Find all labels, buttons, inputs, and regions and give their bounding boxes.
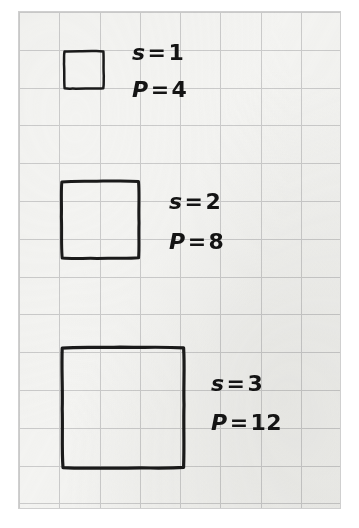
- label-perimeter-2-variable: P: [169, 229, 186, 254]
- label-side-3-variable: s: [211, 371, 225, 396]
- scanned-worksheet: s=1 P=4 s=2 P=8 s=3 P=12: [0, 0, 359, 528]
- label-perimeter-1-equals: =: [149, 77, 172, 102]
- label-perimeter-2-value: 8: [209, 229, 225, 254]
- label-side-1: s=1: [132, 42, 184, 64]
- label-side-3-equals: =: [225, 371, 248, 396]
- label-side-3-value: 3: [248, 371, 264, 396]
- label-perimeter-3-equals: =: [228, 410, 251, 435]
- label-perimeter-3: P=12: [211, 412, 282, 434]
- label-side-1-equals: =: [146, 40, 169, 65]
- label-side-1-value: 1: [169, 40, 185, 65]
- label-perimeter-2: P=8: [169, 231, 224, 253]
- square-shape-3: [57, 342, 191, 476]
- square-shape-1: [60, 48, 110, 98]
- label-perimeter-1-variable: P: [132, 77, 149, 102]
- label-side-2-equals: =: [183, 189, 206, 214]
- label-side-1-variable: s: [132, 40, 146, 65]
- label-side-2-value: 2: [206, 189, 222, 214]
- label-side-3: s=3: [211, 373, 263, 395]
- label-perimeter-1-value: 4: [172, 77, 188, 102]
- square-shape-2: [57, 177, 149, 269]
- label-side-2: s=2: [169, 191, 221, 213]
- label-perimeter-1: P=4: [132, 79, 187, 101]
- label-perimeter-3-variable: P: [211, 410, 228, 435]
- label-side-2-variable: s: [169, 189, 183, 214]
- label-perimeter-3-value: 12: [251, 410, 283, 435]
- label-perimeter-2-equals: =: [186, 229, 209, 254]
